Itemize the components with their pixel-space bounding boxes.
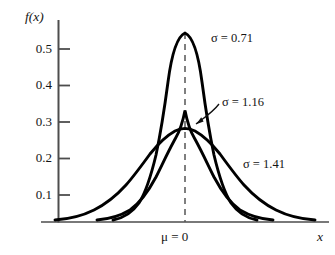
curve-sigma-1-41 bbox=[55, 128, 315, 220]
series-label-sigma-1-16: σ = 1.16 bbox=[222, 96, 264, 109]
y-tick-label-0-5: 0.5 bbox=[18, 42, 52, 55]
normal-distribution-figure: f(x) 0.5 0.4 0.3 0.2 0.1 σ = 0.71 σ = 1.… bbox=[0, 0, 335, 255]
y-axis-ticks bbox=[59, 49, 70, 195]
y-tick-label-0-1: 0.1 bbox=[18, 188, 52, 201]
y-axis-label: f(x) bbox=[25, 10, 44, 24]
x-axis-label: x bbox=[317, 230, 323, 244]
y-tick-label-0-3: 0.3 bbox=[18, 115, 52, 128]
series-label-sigma-1-41: σ = 1.41 bbox=[243, 158, 285, 171]
series-label-sigma-0-71: σ = 0.71 bbox=[211, 32, 253, 45]
y-tick-label-0-4: 0.4 bbox=[18, 78, 52, 91]
mean-label: μ = 0 bbox=[161, 230, 188, 243]
y-tick-label-0-2: 0.2 bbox=[18, 151, 52, 164]
